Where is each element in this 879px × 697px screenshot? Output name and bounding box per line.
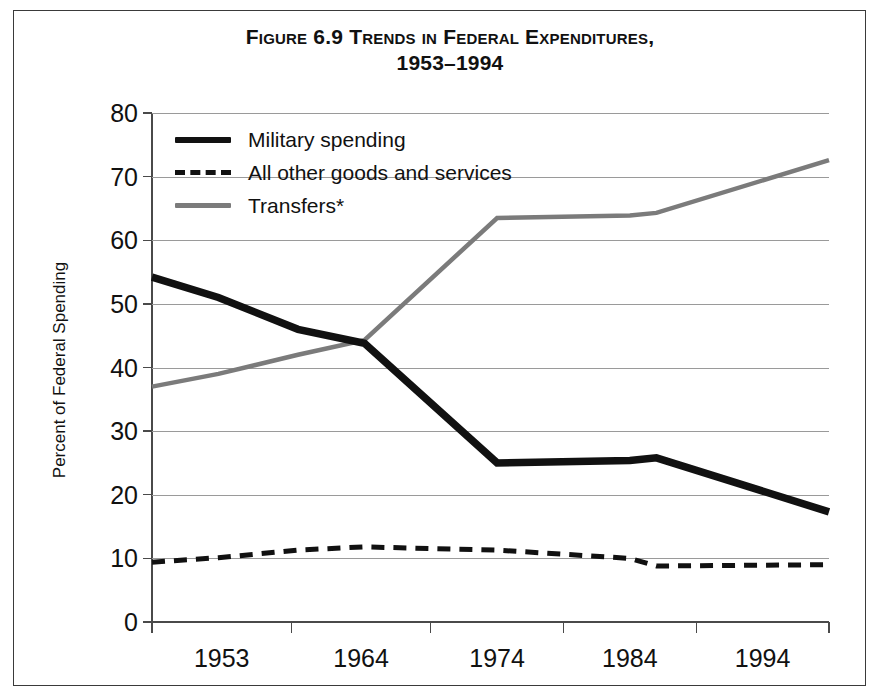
legend-line-glyph [175,170,231,175]
legend-line-glyph [175,137,231,143]
x-tick-label: 1994 [735,644,791,673]
y-tick-label: 0 [124,608,138,637]
legend-item: Transfers* [172,189,532,222]
x-tick [563,622,564,633]
x-tick [291,622,292,633]
y-tick [143,240,152,241]
legend-item-label: Military spending [248,128,406,152]
y-tick [143,367,152,368]
x-tick-label: 1984 [602,644,658,673]
figure-title-line-1: Figure 6.9 Trends in Federal Expenditure… [120,24,780,50]
legend-item: All other goods and services [172,156,532,189]
y-tick [143,494,152,495]
figure-title-line-2: 1953–1994 [120,50,780,76]
y-tick [143,558,152,559]
y-axis-title: Percent of Federal Spending [50,262,70,478]
y-tick [143,430,152,431]
x-tick [828,622,829,633]
y-tick-label: 20 [110,480,138,509]
figure-title: Figure 6.9 Trends in Federal Expenditure… [120,24,780,75]
y-tick-label: 50 [110,289,138,318]
y-tick-label: 70 [110,162,138,191]
legend-line-glyph [175,203,231,208]
figure-container: Figure 6.9 Trends in Federal Expenditure… [0,0,879,697]
legend-swatch-icon [172,203,234,208]
legend-swatch-icon [172,137,234,143]
y-tick-label: 60 [110,226,138,255]
y-tick-label: 30 [110,417,138,446]
x-tick-label: 1964 [333,644,389,673]
legend-swatch-icon [172,170,234,175]
x-tick-label: 1953 [194,644,250,673]
y-tick [143,112,152,113]
y-tick-label: 80 [110,99,138,128]
y-tick [143,176,152,177]
x-tick [430,622,431,633]
legend-item-label: Transfers* [248,194,344,218]
x-tick-label: 1974 [469,644,525,673]
y-tick-label: 10 [110,544,138,573]
legend: Military spendingAll other goods and ser… [172,123,532,222]
y-tick-label: 40 [110,353,138,382]
x-tick [696,622,697,633]
series-line-military-spending [152,277,829,512]
legend-item: Military spending [172,123,532,156]
y-tick [143,303,152,304]
x-tick [151,622,152,633]
legend-item-label: All other goods and services [248,161,512,185]
series-line-all-other-goods-and-services [152,547,829,566]
